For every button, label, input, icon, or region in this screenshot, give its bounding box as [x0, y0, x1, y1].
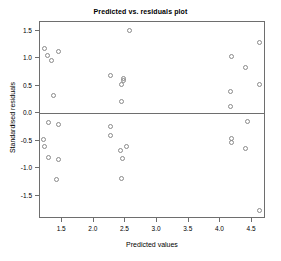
- data-point: [108, 73, 113, 78]
- y-tick-mark: [35, 112, 39, 113]
- plot-area: [39, 21, 265, 218]
- y-tick-mark: [35, 195, 39, 196]
- data-point: [41, 137, 46, 142]
- x-tick-mark: [61, 218, 62, 222]
- data-point: [119, 82, 124, 87]
- data-point: [46, 155, 51, 160]
- data-point: [108, 133, 113, 138]
- data-point: [124, 144, 129, 149]
- data-point: [54, 177, 59, 182]
- data-point: [118, 148, 123, 153]
- chart-title: Predicted vs. residuals plot: [0, 8, 281, 15]
- y-tick-mark: [35, 167, 39, 168]
- x-tick-mark: [156, 218, 157, 222]
- data-point: [119, 99, 124, 104]
- x-tick-label: 3.0: [152, 225, 161, 232]
- x-tick-label: 2.5: [120, 225, 129, 232]
- data-point: [46, 120, 51, 125]
- y-tick-label: 1.0: [0, 54, 32, 61]
- y-tick-label: 0.0: [0, 109, 32, 116]
- y-axis-label: Standardised residuals: [8, 57, 15, 177]
- data-point: [120, 156, 125, 161]
- x-axis-label: Predicted values: [39, 241, 265, 248]
- data-point: [127, 28, 132, 33]
- x-tick-label: 4.0: [215, 225, 224, 232]
- data-point: [108, 124, 113, 129]
- data-point: [228, 104, 233, 109]
- zero-reference-line: [40, 113, 264, 114]
- data-point: [257, 40, 262, 45]
- x-tick-mark: [93, 218, 94, 222]
- data-point: [229, 140, 234, 145]
- data-point: [42, 144, 47, 149]
- data-point: [56, 49, 61, 54]
- y-tick-mark: [35, 57, 39, 58]
- y-tick-label: 0.5: [0, 81, 32, 88]
- residuals-scatter-figure: Predicted vs. residuals plot 1.51.00.50.…: [0, 0, 281, 261]
- y-tick-mark: [35, 85, 39, 86]
- data-point: [42, 46, 47, 51]
- data-point: [257, 82, 262, 87]
- x-tick-label: 4.5: [247, 225, 256, 232]
- data-point: [257, 208, 262, 213]
- data-point: [56, 122, 61, 127]
- x-tick-mark: [251, 218, 252, 222]
- x-tick-label: 2.0: [88, 225, 97, 232]
- x-tick-mark: [219, 218, 220, 222]
- y-tick-label: -1.0: [0, 164, 32, 171]
- y-tick-mark: [35, 140, 39, 141]
- data-point: [228, 89, 233, 94]
- data-point: [243, 146, 248, 151]
- data-point: [245, 119, 250, 124]
- y-tick-label: -1.5: [0, 191, 32, 198]
- y-tick-label: -0.5: [0, 136, 32, 143]
- x-tick-label: 1.5: [57, 225, 66, 232]
- data-point: [56, 157, 61, 162]
- data-point: [51, 93, 56, 98]
- data-point: [49, 58, 54, 63]
- x-tick-mark: [124, 218, 125, 222]
- x-tick-mark: [188, 218, 189, 222]
- data-point: [229, 54, 234, 59]
- data-point: [243, 65, 248, 70]
- data-point: [119, 176, 124, 181]
- y-tick-label: 1.5: [0, 26, 32, 33]
- x-tick-label: 3.5: [183, 225, 192, 232]
- y-tick-mark: [35, 30, 39, 31]
